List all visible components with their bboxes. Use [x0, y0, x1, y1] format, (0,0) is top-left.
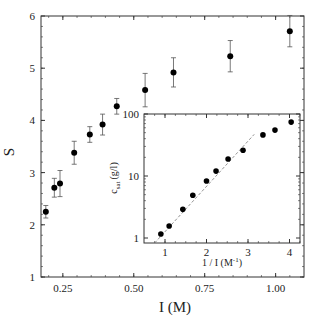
inset-y-label-unit: (g/l): [108, 162, 120, 179]
data-point: [71, 150, 77, 156]
inset-data-point: [272, 127, 278, 133]
data-point: [170, 69, 176, 75]
inset-y-tick-label: 10: [128, 170, 140, 182]
inset-y-axis-label: csat(g/l): [108, 162, 122, 193]
inset-data-point: [180, 207, 186, 213]
x-axis-label: I (M): [159, 299, 191, 316]
inset-data-point: [240, 147, 246, 153]
inset-y-tick-label: 1: [134, 232, 140, 244]
data-point: [100, 122, 106, 128]
inset-plot: 1101001234: [123, 108, 301, 258]
data-point: [43, 209, 49, 215]
y-tick-label: 6: [30, 10, 36, 22]
inset-x-label-close: ): [239, 257, 242, 269]
inset-x-axis-label: 1 / I (M-1): [202, 256, 242, 269]
inset-data-point: [225, 156, 231, 162]
y-tick-label: 2: [30, 219, 36, 231]
figure: 1234560.250.500.751.00 1101001234 I (M) …: [0, 0, 318, 322]
inset-data-point: [213, 168, 219, 174]
inset-data-point: [190, 192, 196, 198]
inset-x-label-main: 1 / I (M: [202, 257, 233, 269]
y-tick-label: 4: [30, 114, 36, 126]
y-tick-label: 3: [30, 167, 36, 179]
inset-frame: [144, 114, 300, 243]
y-axis-label: S: [1, 148, 17, 156]
data-point: [114, 103, 120, 109]
x-tick-label: 0.75: [195, 282, 215, 294]
x-tick-label: 0.50: [124, 282, 144, 294]
inset-data-point: [158, 231, 164, 237]
data-point: [287, 28, 293, 34]
data-point: [51, 185, 57, 191]
inset-x-tick-label: 4: [287, 246, 293, 258]
data-point: [142, 87, 148, 93]
x-tick-label: 1.00: [266, 282, 286, 294]
x-tick-label: 0.25: [53, 282, 73, 294]
y-tick-label: 1: [30, 271, 36, 283]
inset-x-tick-label: 1: [162, 246, 168, 258]
inset-data-point: [166, 223, 172, 229]
inset-y-tick-label: 100: [123, 108, 140, 120]
inset-data-point: [260, 132, 266, 138]
inset-x-tick-label: 3: [245, 246, 251, 258]
inset-data-point: [288, 119, 294, 125]
data-point: [57, 181, 63, 187]
y-tick-label: 5: [30, 62, 36, 74]
data-point: [227, 53, 233, 59]
inset-data-point: [204, 178, 210, 184]
inset-y-label-subscript: sat: [114, 181, 122, 189]
data-point: [87, 131, 93, 137]
